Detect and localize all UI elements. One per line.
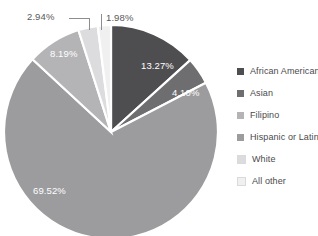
legend-item[interactable]: All other xyxy=(237,170,318,192)
legend-swatch-icon xyxy=(237,155,246,164)
legend-swatch-icon xyxy=(237,68,244,75)
legend-item-label: All other xyxy=(252,176,286,186)
legend-item-label: Asian xyxy=(250,88,273,98)
slice-value-filipino: 8.19% xyxy=(50,49,77,59)
legend-swatch-icon xyxy=(237,177,246,186)
pie-chart-svg xyxy=(0,0,222,236)
legend-item-label: Hispanic or Latino xyxy=(250,132,318,142)
leader-line-white-vertical xyxy=(89,18,90,30)
chart-legend: African AmericanAsianFilipinoHispanic or… xyxy=(237,60,318,192)
legend-swatch-icon xyxy=(237,134,244,141)
legend-item-label: African American xyxy=(250,66,318,76)
legend-item-label: White xyxy=(252,154,276,164)
slice-value-all-other: 1.98% xyxy=(106,13,133,23)
legend-item[interactable]: White xyxy=(237,148,318,170)
slice-value-white: 2.94% xyxy=(27,12,54,22)
pie-chart-page: 13.27% 4.10% 69.52% 8.19% 2.94% 1.98% Af… xyxy=(0,0,318,236)
legend-item[interactable]: Hispanic or Latino xyxy=(237,126,318,148)
legend-item[interactable]: Filipino xyxy=(237,104,318,126)
slice-value-hispanic-or-latino: 69.52% xyxy=(33,186,66,196)
legend-swatch-icon xyxy=(237,112,244,119)
legend-item[interactable]: African American xyxy=(237,60,318,82)
legend-item-label: Filipino xyxy=(250,110,279,120)
legend-item[interactable]: Asian xyxy=(237,82,318,104)
leader-line-all-other-vertical xyxy=(101,14,102,30)
slice-value-african-american: 13.27% xyxy=(141,61,174,71)
slice-value-asian: 4.10% xyxy=(172,88,199,98)
legend-swatch-icon xyxy=(237,90,244,97)
pie-slice-group xyxy=(4,25,218,236)
pie-chart: 13.27% 4.10% 69.52% 8.19% 2.94% 1.98% xyxy=(0,0,222,236)
leader-line-white-horizontal xyxy=(69,18,90,19)
